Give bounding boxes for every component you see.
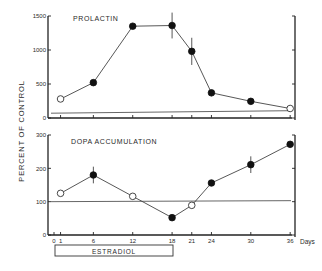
figure: 050010001500PROLACTIN 010020030001612182… [0, 0, 322, 271]
x-tick-label: 1 [59, 238, 63, 244]
x-tick-label: 36 [287, 238, 294, 244]
data-point-open [57, 96, 64, 103]
chart-canvas: 050010001500PROLACTIN 010020030001612182… [0, 0, 322, 271]
control-baseline [51, 201, 291, 202]
data-point-filled [208, 180, 215, 187]
y-tick-label: 300 [36, 132, 47, 138]
dopa-accumulation-panel: 0100200300016121821243036DOPA ACCUMULATI… [36, 132, 295, 244]
data-point-filled [188, 48, 195, 55]
prolactin-panel: 050010001500PROLACTIN [33, 13, 295, 122]
data-point-filled [169, 214, 176, 221]
data-series-line [61, 26, 291, 109]
x-tick-label: 18 [169, 238, 176, 244]
x-tick-label: 6 [92, 238, 96, 244]
data-point-filled [248, 98, 255, 105]
data-point-filled [90, 172, 97, 179]
x-tick-label: 0 [52, 238, 56, 244]
data-point-filled [208, 90, 215, 97]
x-tick-label: 21 [188, 238, 195, 244]
data-point-filled [169, 22, 176, 29]
control-baseline [51, 111, 291, 114]
y-tick-label: 0 [43, 232, 47, 238]
data-point-filled [129, 23, 136, 30]
y-tick-label: 500 [36, 81, 47, 87]
y-tick-label: 200 [36, 166, 47, 172]
data-point-open [287, 105, 294, 112]
data-series-line [61, 144, 291, 217]
data-point-open [129, 193, 136, 200]
y-tick-label: 1000 [33, 47, 47, 53]
data-point-filled [248, 161, 255, 168]
x-tick-label: 24 [208, 238, 215, 244]
x-tick-label: 12 [129, 238, 136, 244]
x-unit-label: Days [300, 238, 316, 246]
panel-title: DOPA ACCUMULATION [71, 138, 157, 145]
data-point-open [57, 190, 64, 197]
y-tick-label: 1500 [33, 13, 47, 19]
data-point-filled [90, 79, 97, 86]
y-tick-label: 0 [43, 115, 47, 121]
x-tick-label: 30 [247, 238, 254, 244]
estradiol-label: ESTRADIOL [92, 248, 136, 255]
y-axis-label: PERCENT OF CONTROL [17, 80, 26, 181]
estradiol-treatment-bar: ESTRADIOL [55, 245, 173, 256]
y-tick-label: 100 [36, 199, 47, 205]
panel-title: PROLACTIN [73, 15, 118, 22]
data-point-filled [287, 141, 294, 148]
data-point-open [188, 202, 195, 209]
